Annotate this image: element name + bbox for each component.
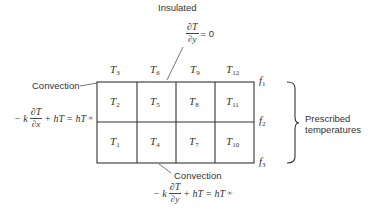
grid-cell-label: T1 <box>110 135 120 149</box>
node-label: T6 <box>150 63 160 77</box>
insulated-leader <box>167 47 183 80</box>
fraction: ∂T ∂y <box>186 22 199 44</box>
grid-cell-label: T11 <box>226 95 239 109</box>
node-label: T12 <box>226 63 239 77</box>
prescribed-value-label: f1 <box>259 74 266 88</box>
grid-cell-label: T2 <box>110 95 120 109</box>
insulated-label: Insulated <box>158 2 197 13</box>
grid-cell-label: T10 <box>226 135 239 149</box>
insulated-equation: ∂T ∂y = 0 <box>186 22 214 44</box>
left-convection-equation: − k ∂T ∂x + hT = hT∞ <box>14 107 93 129</box>
left-convection-leader <box>80 83 97 86</box>
bottom-convection-equation: − k ∂T ∂y + hT = hT∞ <box>153 182 232 204</box>
fraction: ∂T ∂x <box>30 107 43 129</box>
prescribed-value-label: f3 <box>259 155 266 169</box>
left-convection-label: Convection <box>32 80 80 91</box>
fraction: ∂T ∂y <box>169 182 182 204</box>
grid-cell-label: T7 <box>189 135 199 149</box>
grid-cell-label: T5 <box>150 95 160 109</box>
prescribed-temperatures-label: Prescribed temperatures <box>305 113 361 135</box>
prescribed-value-label: f2 <box>259 114 266 128</box>
grid-cell-label: T4 <box>150 135 160 149</box>
grid-cell-label: T8 <box>189 95 199 109</box>
brace <box>287 82 299 163</box>
bottom-convection-label: Convection <box>174 170 222 181</box>
bottom-convection-leader <box>159 164 171 173</box>
node-label: T9 <box>190 63 200 77</box>
node-label: T3 <box>110 63 120 77</box>
